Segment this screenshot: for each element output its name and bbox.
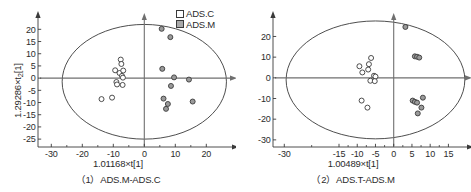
y-tick-label: 20 — [261, 32, 271, 42]
data-point-open[interactable] — [110, 95, 115, 100]
data-point-filled[interactable] — [419, 105, 424, 110]
x-axis-label-2: 1.00489×t[1] — [235, 158, 471, 169]
y-axis-arrow-icon — [391, 13, 396, 20]
series-ads-t — [403, 24, 426, 115]
y-tick-label: 0 — [266, 73, 271, 83]
series-ads-m — [159, 26, 195, 111]
y-tick-label: -30 — [258, 135, 271, 145]
data-point-open[interactable] — [366, 67, 371, 72]
panel-caption-2: （2）ADS.T-ADS.M — [235, 172, 471, 186]
data-point-open[interactable] — [115, 82, 120, 87]
y-tick-label: -20 — [23, 122, 36, 132]
legend-swatch-open-icon — [176, 10, 184, 18]
y-axis-rail-arrow-icon — [270, 11, 275, 18]
data-point-filled[interactable] — [172, 75, 177, 80]
data-point-filled[interactable] — [415, 100, 420, 105]
data-point-open[interactable] — [360, 70, 365, 75]
legend-label: ADS.C — [186, 9, 214, 19]
legend-label: ADS.M — [186, 20, 215, 30]
legend-panel-1: ADS.C ADS.M — [176, 9, 215, 29]
data-point-filled[interactable] — [415, 111, 420, 116]
y-tick-label: 10 — [261, 52, 271, 62]
data-point-open[interactable] — [120, 75, 125, 80]
data-point-filled[interactable] — [160, 66, 165, 71]
data-point-filled[interactable] — [186, 77, 191, 82]
y-tick-label: 5 — [31, 61, 36, 71]
scatter-panel-1: -30-20-100102020151050-5-10-15-20-25 ADS… — [0, 0, 236, 192]
data-point-filled[interactable] — [168, 35, 173, 40]
y-tick-label: 0 — [31, 73, 36, 83]
panel-caption-1: （1）ADS.M-ADS.C — [0, 172, 236, 186]
data-point-filled[interactable] — [165, 101, 170, 106]
y-axis-label-subscript: 2 — [16, 73, 25, 77]
y-tick-label: -15 — [23, 110, 36, 120]
y-tick-label: -25 — [23, 134, 36, 144]
y-tick-label: 20 — [26, 25, 36, 35]
y-axis-label-1: 1.29286×t2[1] — [12, 63, 25, 118]
data-point-filled[interactable] — [420, 95, 425, 100]
legend-item-ads-c[interactable]: ADS.C — [176, 9, 215, 19]
y-axis-rail-arrow-icon — [35, 11, 40, 18]
data-point-filled[interactable] — [417, 55, 422, 60]
data-point-filled[interactable] — [190, 99, 195, 104]
y-tick-label: 10 — [26, 49, 36, 59]
legend-item-ads-m[interactable]: ADS.M — [176, 20, 215, 30]
y-tick-label: -10 — [258, 94, 271, 104]
data-point-filled[interactable] — [168, 83, 173, 88]
data-point-open[interactable] — [366, 62, 371, 67]
legend-swatch-filled-icon — [176, 20, 184, 28]
data-point-open[interactable] — [369, 55, 374, 60]
scatter-panel-2: -30-15-10-505101520100-10-20-30 ADS.M AD… — [235, 0, 471, 192]
data-point-open[interactable] — [119, 61, 124, 66]
data-point-open[interactable] — [359, 98, 364, 103]
data-point-filled[interactable] — [403, 24, 408, 29]
data-point-open[interactable] — [121, 68, 126, 73]
data-point-open[interactable] — [365, 105, 370, 110]
data-point-filled[interactable] — [164, 106, 169, 111]
data-point-filled[interactable] — [161, 96, 166, 101]
x-axis-rail-arrow-icon — [467, 144, 471, 149]
x-axis-arrow-icon — [465, 75, 471, 80]
data-point-filled[interactable] — [159, 26, 164, 31]
data-point-open[interactable] — [357, 64, 362, 69]
data-point-open[interactable] — [372, 79, 377, 84]
series-ads-m — [357, 55, 378, 110]
x-axis-label-1: 1.01168×t[1] — [0, 158, 236, 169]
data-point-open[interactable] — [120, 82, 125, 87]
y-tick-label: -20 — [258, 114, 271, 124]
figure-root: -30-20-100102020151050-5-10-15-20-25 ADS… — [0, 0, 471, 192]
data-point-open[interactable] — [99, 97, 104, 102]
y-tick-label: -5 — [28, 86, 36, 96]
series-ads-c — [99, 57, 126, 102]
y-tick-label: 15 — [26, 37, 36, 47]
y-tick-label: -10 — [23, 98, 36, 108]
y-axis-arrow-icon — [142, 13, 147, 20]
